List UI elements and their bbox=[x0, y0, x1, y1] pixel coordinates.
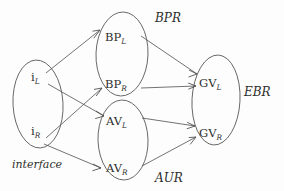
group-label-interface: interface bbox=[12, 158, 63, 171]
edge-AVR-to-GVR bbox=[142, 137, 196, 166]
group-labels: BPR AUR EBR interface bbox=[12, 11, 271, 185]
node-label-AVR: AVR bbox=[105, 161, 128, 177]
node-label-BPL: BPL bbox=[105, 30, 126, 46]
node-label-GVL: GVL bbox=[199, 76, 222, 92]
diagram-svg: iL iR BPL BPR AVL AVR GVL GVR bbox=[0, 0, 284, 191]
node-label-GVR: GVR bbox=[199, 126, 223, 142]
group-label-bpr: BPR bbox=[154, 11, 181, 25]
group-outlines bbox=[11, 11, 243, 181]
edge-iL-to-BPL bbox=[46, 30, 100, 73]
diagram-canvas: iL iR BPL BPR AVL AVR GVL GVR bbox=[0, 0, 284, 191]
node-label-iR: iR bbox=[31, 124, 41, 140]
node-label-AVL: AVL bbox=[105, 114, 127, 130]
edge-iR-to-BPR bbox=[46, 88, 102, 138]
edge-BPL-to-GVL bbox=[141, 36, 197, 74]
node-label-BPR: BPR bbox=[105, 77, 127, 93]
group-label-ebr: EBR bbox=[243, 85, 271, 99]
edge-BPR-to-GVL bbox=[141, 86, 196, 88]
group-label-aur: AUR bbox=[154, 171, 183, 185]
node-labels: iL iR BPL BPR AVL AVR GVL GVR bbox=[31, 30, 223, 177]
node-label-iL: iL bbox=[31, 70, 40, 86]
edge-AVL-to-GVR bbox=[142, 118, 195, 126]
